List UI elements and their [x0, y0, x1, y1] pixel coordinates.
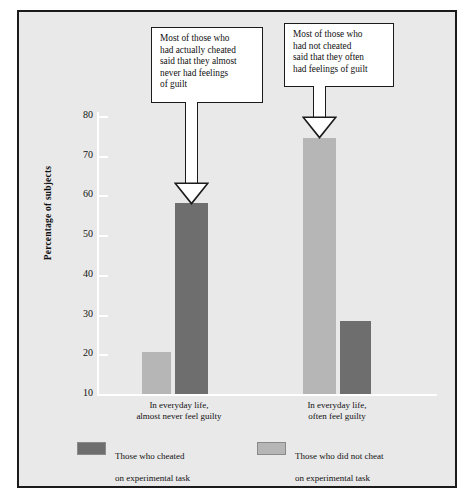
callout-box-not-cheated: Most of those who had not cheated said t… [284, 23, 394, 87]
x-category-label-1: In everyday life, almost never feel guil… [99, 400, 259, 422]
callout-2-line1: Most of those who [293, 29, 386, 41]
callout-1-line5: of guilt [160, 79, 255, 91]
x-category-label-2-line1: In everyday life, [257, 400, 417, 411]
bar-group2-cheated [340, 321, 371, 395]
y-tick-label-60: 60 [69, 188, 93, 199]
y-tick-mark-10 [99, 394, 108, 396]
legend-label-did-not-cheat: Those who did not cheat on experimental … [295, 440, 455, 495]
y-tick-mark-60 [99, 195, 108, 197]
callout-box-cheated: Most of those who had actually cheated s… [151, 27, 263, 103]
y-tick-mark-70 [99, 156, 108, 158]
callout-1-arrow-shaft [185, 102, 198, 185]
y-tick-label-40: 40 [69, 268, 93, 279]
y-tick-label-10: 10 [69, 387, 93, 398]
legend-label-did-not-cheat-line1: Those who did not cheat [295, 451, 455, 462]
y-tick-label-20: 20 [69, 347, 93, 358]
y-tick-label-80: 80 [69, 109, 93, 120]
callout-1-line3: said that they almost [160, 56, 255, 68]
legend-label-cheated: Those who cheated on experimental task [115, 440, 265, 495]
bar-group2-did-not-cheat [303, 138, 336, 394]
y-axis-title: Percentage of subjects [43, 143, 53, 283]
chart-plate: Percentage of subjects 80 70 60 50 40 30… [17, 10, 457, 488]
y-tick-mark-50 [99, 235, 108, 237]
legend-label-did-not-cheat-line2: on experimental task [295, 473, 455, 484]
y-tick-label-30: 30 [69, 308, 93, 319]
legend-label-cheated-line1: Those who cheated [115, 451, 265, 462]
figure-root: Percentage of subjects 80 70 60 50 40 30… [0, 0, 474, 499]
callout-2-line4: had feelings of guilt [293, 64, 386, 76]
y-tick-mark-20 [99, 354, 108, 356]
y-tick-mark-40 [99, 275, 108, 277]
x-category-label-2-line2: often feel guilty [257, 411, 417, 422]
callout-1-arrow-head [174, 182, 209, 205]
x-category-label-2: In everyday life, often feel guilty [257, 400, 417, 422]
callout-1-line1: Most of those who [160, 33, 255, 45]
callout-2-line3: said that they often [293, 52, 386, 64]
y-tick-label-50: 50 [69, 228, 93, 239]
callout-2-arrow-shaft [313, 86, 326, 119]
callout-1-line4: never had feelings [160, 68, 255, 80]
y-tick-label-70: 70 [69, 149, 93, 160]
x-axis-line [97, 394, 437, 396]
bar-group1-cheated [175, 203, 208, 394]
legend-swatch-cheated [77, 442, 106, 455]
callout-2-arrow-head [302, 116, 337, 139]
callout-2-line2: had not cheated [293, 41, 386, 53]
legend-label-cheated-line2: on experimental task [115, 473, 265, 484]
y-tick-mark-30 [99, 315, 108, 317]
bar-group1-did-not-cheat [142, 352, 171, 394]
legend-swatch-did-not-cheat [257, 442, 286, 455]
x-category-label-1-line1: In everyday life, [99, 400, 259, 411]
x-category-label-1-line2: almost never feel guilty [99, 411, 259, 422]
callout-1-line2: had actually cheated [160, 45, 255, 57]
y-tick-mark-80 [99, 116, 108, 118]
